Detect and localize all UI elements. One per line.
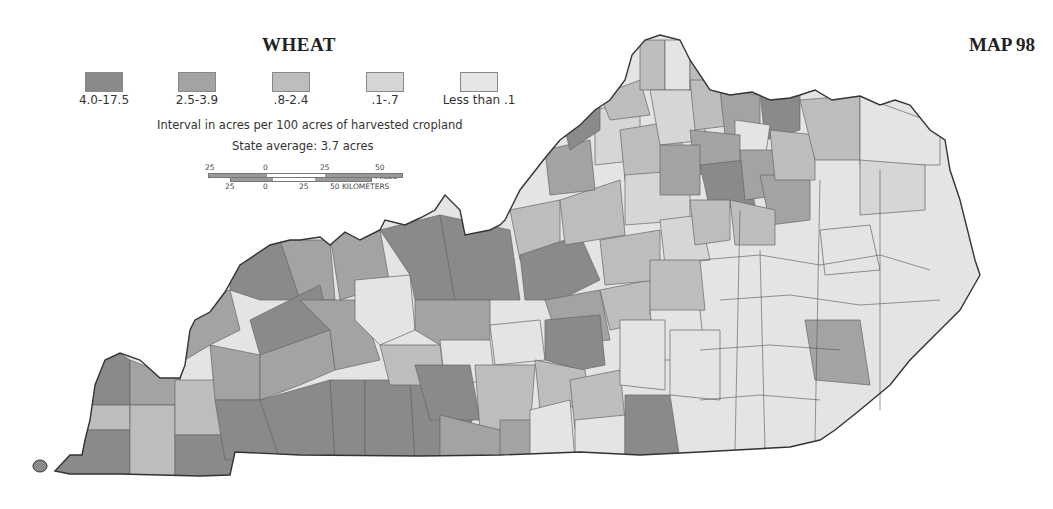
- kentucky-bend-exclave: [33, 460, 47, 472]
- kentucky-county-map: [0, 0, 1053, 509]
- county-polygons: [0, 0, 1053, 509]
